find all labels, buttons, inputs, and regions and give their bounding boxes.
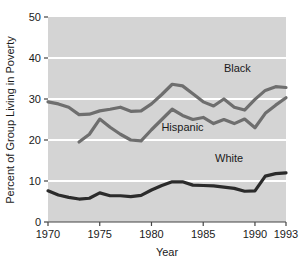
- x-tick-label-1990: 1990: [243, 228, 267, 240]
- y-tick-label-50: 50: [29, 11, 41, 23]
- x-tick-label-1980: 1980: [139, 228, 163, 240]
- y-tick-label-0: 0: [35, 216, 41, 228]
- y-axis-title: Percent of Group Living in Poverty: [4, 36, 16, 204]
- y-tick-label-10: 10: [29, 175, 41, 187]
- series-label-hispanic: Hispanic: [161, 121, 204, 133]
- y-tick-label-20: 20: [29, 134, 41, 146]
- x-tick-label-1970: 1970: [36, 228, 60, 240]
- poverty-line-chart-figure: 197019751980198519901993 01020304050 Bla…: [0, 0, 308, 267]
- x-tick-label-1993: 1993: [274, 228, 298, 240]
- y-tick-label-40: 40: [29, 52, 41, 64]
- y-tick-label-30: 30: [29, 93, 41, 105]
- chart-canvas: 197019751980198519901993 01020304050 Bla…: [0, 0, 308, 267]
- x-axis-title: Year: [156, 246, 179, 258]
- x-tick-label-1975: 1975: [87, 228, 111, 240]
- x-tick-label-1985: 1985: [191, 228, 215, 240]
- series-label-black: Black: [224, 62, 251, 74]
- series-label-white: White: [215, 152, 243, 164]
